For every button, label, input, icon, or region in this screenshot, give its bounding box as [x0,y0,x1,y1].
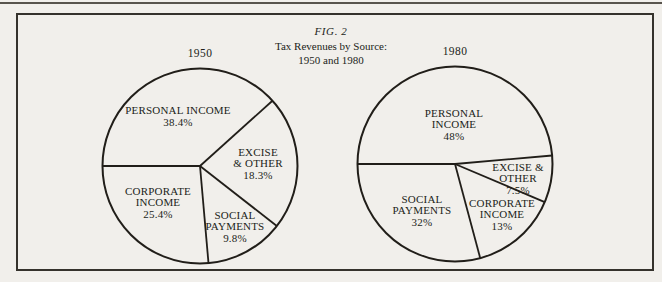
slice-label: CORPORATE [125,185,191,197]
slice-label: CORPORATE [469,197,535,209]
pie-1980-year-label: 1980 [355,45,555,57]
slice-label: SOCIAL [215,209,256,221]
pie-svg: PERSONALINCOME48%EXCISE &OTHER7.5%CORPOR… [355,64,555,264]
slice-label: 48% [444,130,465,142]
slice-boundary-line [455,164,480,258]
pie-1950-year-label: 1950 [100,47,300,59]
slice-label: INCOME [480,208,525,220]
pie-chart-1950: PERSONAL INCOME38.4%EXCISE& OTHER18.3%SO… [100,66,300,266]
slice-label: 13% [492,220,513,232]
pie-chart-1980: PERSONALINCOME48%EXCISE &OTHER7.5%CORPOR… [355,64,555,264]
slice-label: 7.5% [506,184,530,196]
slice-label: 18.3% [243,169,272,181]
slice-label: PERSONAL INCOME [125,104,231,116]
slice-boundary-line [200,166,208,263]
slice-label: PERSONAL [425,107,484,119]
slice-label: & OTHER [233,157,283,169]
slice-label: SOCIAL [402,193,443,205]
slice-label: 9.8% [223,232,247,244]
slice-label: INCOME [432,118,477,130]
figure-title-block: FIG. 2 Tax Revenues by Source: 1950 and … [0,24,662,67]
slice-label: PAYMENTS [206,220,265,232]
page-top-rule [0,2,662,4]
figure-number: FIG. 2 [0,24,662,38]
slice-label: INCOME [136,196,181,208]
slice-label: PAYMENTS [393,204,452,216]
pie-svg: PERSONAL INCOME38.4%EXCISE& OTHER18.3%SO… [100,66,300,266]
slice-label: 38.4% [163,116,192,128]
slice-label: EXCISE & [492,161,544,173]
slice-label: OTHER [499,172,537,184]
slice-label: 32% [412,216,433,228]
slice-label: 25.4% [143,208,172,220]
slice-label: EXCISE [238,146,278,158]
